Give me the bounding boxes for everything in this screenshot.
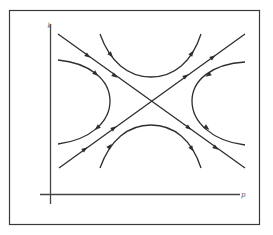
x-axis-label: p <box>241 191 246 199</box>
y-axis-label: k <box>48 22 52 30</box>
trajectory-left <box>58 60 110 144</box>
phase-diagram: k p <box>0 0 273 235</box>
trajectory-right <box>192 62 245 145</box>
figure-frame <box>10 11 260 225</box>
trajectory-top <box>100 34 201 77</box>
trajectory-bottom <box>100 125 201 168</box>
